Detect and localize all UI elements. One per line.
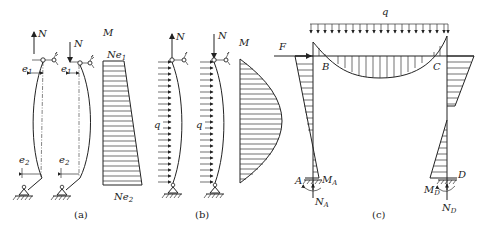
distributed-load-label: q xyxy=(196,119,202,130)
deflected-column xyxy=(214,62,224,183)
moment-title: M xyxy=(238,37,250,48)
deflected-column xyxy=(172,62,182,183)
beam-moment-diagram xyxy=(313,36,447,78)
caption-c: (c) xyxy=(372,209,386,220)
distributed-load-arrows xyxy=(311,24,448,33)
caption-a: (a) xyxy=(74,209,88,220)
pin-support-bottom xyxy=(162,183,182,198)
axial-force-label: N xyxy=(175,31,186,42)
column-b1: N xyxy=(154,31,188,198)
support-A-label: A xyxy=(294,175,302,186)
panel-c: q xyxy=(274,6,474,220)
support-D-label: D xyxy=(457,169,466,180)
column-a1: N e1 e2 xyxy=(13,28,58,200)
moment-D-label: MD xyxy=(423,184,440,197)
e1-label: e1 xyxy=(61,63,71,76)
pin-top xyxy=(170,58,174,62)
pin-support-bottom xyxy=(13,185,33,200)
moment-diagram-a: M Ne1 Ne2 xyxy=(102,27,142,204)
caption-b: (b) xyxy=(195,209,209,220)
force-F-label: F xyxy=(278,41,287,52)
portal-frame xyxy=(295,36,474,190)
axial-force-label: N xyxy=(73,38,84,49)
axial-force-label: N xyxy=(37,28,48,39)
panel-b: N xyxy=(154,30,282,220)
roller-support xyxy=(52,58,56,62)
column-b2: N xyxy=(196,30,230,198)
joint-B-label: B xyxy=(321,61,329,72)
moment-title: M xyxy=(102,27,114,38)
right-column-moment-diagram xyxy=(430,56,474,178)
deflected-column xyxy=(66,65,91,190)
structural-diagram: N e1 e2 N xyxy=(0,0,487,231)
roller-support xyxy=(182,58,186,62)
distributed-load-label: q xyxy=(382,6,388,17)
moment-top-label: Ne1 xyxy=(106,49,126,62)
column-a2: N e1 e2 xyxy=(51,38,94,200)
pin-top xyxy=(78,61,82,65)
roller-support xyxy=(224,58,228,62)
panel-a: N e1 e2 N xyxy=(13,27,142,220)
moment-diagram-b: M xyxy=(238,37,282,183)
axial-force-label: N xyxy=(217,30,228,41)
axial-A-label: NA xyxy=(314,196,329,209)
moment-bottom-label: Ne2 xyxy=(113,191,134,204)
distributed-load-label: q xyxy=(154,119,160,130)
pin-support-bottom xyxy=(51,185,71,200)
e2-label: e2 xyxy=(59,154,70,167)
pin-support-bottom xyxy=(204,183,224,198)
roller-support xyxy=(88,61,92,65)
pin-top xyxy=(212,58,216,62)
e1-label: e1 xyxy=(22,63,32,76)
e2-label: e2 xyxy=(19,154,30,167)
moment-A-label: MA xyxy=(321,174,337,187)
joint-C-label: C xyxy=(433,61,441,72)
axial-D-label: ND xyxy=(441,202,457,215)
left-column-moment-diagram xyxy=(295,56,319,178)
pin-top xyxy=(41,58,45,62)
deflected-column xyxy=(28,62,43,190)
